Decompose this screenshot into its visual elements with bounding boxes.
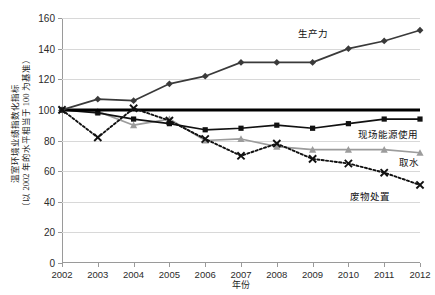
y-tick-label: 0 [49,258,55,269]
series-label-1: 现场能源使用 [358,127,418,141]
data-point-square [346,121,351,126]
data-point-diamond [381,38,388,45]
series-label-3: 废物处置 [350,189,390,203]
data-point-square [131,116,136,121]
x-tick-mark [384,263,385,267]
data-point-diamond [202,73,209,80]
x-tick-mark [241,263,242,267]
x-tick-mark [348,263,349,267]
y-axis-title: 温室环境业绩指数化指标 （以 2002 年的水平相当于 100 为基准） [0,0,42,265]
x-tick-mark [62,263,63,267]
y-axis-title-line2: （以 2002 年的水平相当于 100 为基准） [21,55,32,210]
data-point-diamond [238,59,245,66]
data-point-square [417,116,422,121]
y-tick-label: 100 [38,104,55,115]
y-tick-label: 60 [44,166,55,177]
series-line [62,108,420,185]
x-tick-mark [98,263,99,267]
data-point-diamond [417,27,424,34]
data-point-diamond [94,96,101,103]
x-tick-mark [420,263,421,267]
y-tick-label: 40 [44,196,55,207]
data-point-square [238,126,243,131]
data-point-square [203,127,208,132]
series-label-2: 取水 [399,155,419,169]
x-tick-mark [205,263,206,267]
plot-area: 020406080100120140160 200220032004200520… [62,18,420,263]
data-point-x [94,134,101,141]
y-tick-label: 140 [38,43,55,54]
x-tick-mark [277,263,278,267]
data-point-diamond [166,80,173,87]
y-tick-label: 20 [44,227,55,238]
x-tick-mark [169,263,170,267]
x-tick-mark [313,263,314,267]
data-point-square [274,123,279,128]
series-label-0: 生产力 [298,26,328,40]
data-point-square [310,126,315,131]
series-line [62,30,420,110]
series-0 [59,27,424,113]
x-axis-title: 年份 [62,278,420,291]
y-tick-label: 160 [38,13,55,24]
y-tick-label: 120 [38,74,55,85]
data-point-square [382,116,387,121]
data-point-diamond [309,59,316,66]
x-tick-mark [134,263,135,267]
data-point-diamond [273,59,280,66]
data-point-diamond [345,45,352,52]
data-point-diamond [130,97,137,104]
y-axis-title-line1: 温室环境业绩指数化指标 [10,55,21,210]
chart-figure: 温室环境业绩指数化指标 （以 2002 年的水平相当于 100 为基准） 020… [0,0,435,295]
y-tick-label: 80 [44,135,55,146]
